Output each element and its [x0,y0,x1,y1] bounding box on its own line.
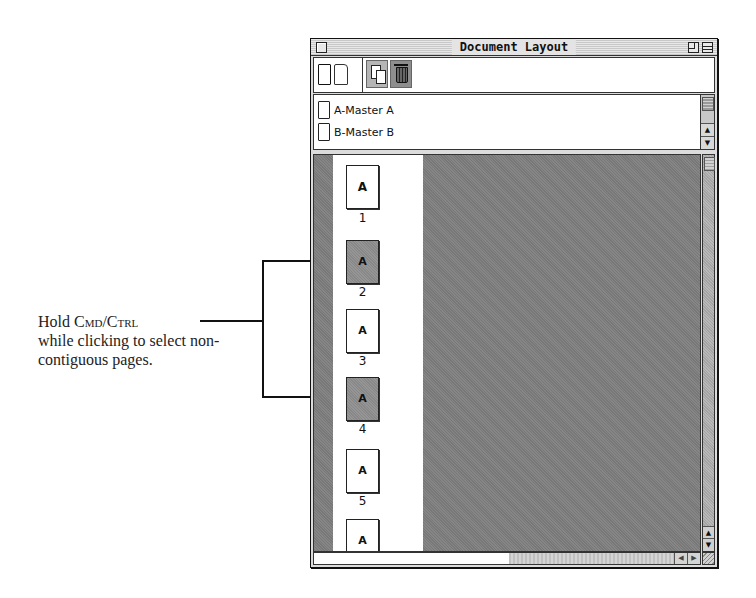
ctrl-key-label: Ctrl [107,313,138,330]
page-thumbnail[interactable]: A [346,309,379,353]
new-page-group [314,58,363,92]
masters-scroll-up-button[interactable]: ▲ [701,123,714,136]
page-thumbnail[interactable]: A [346,519,379,552]
master-pages-list: A-Master A B-Master B ▲ ▼ [313,94,715,150]
document-layout-palette: Document Layout A-Master A B-Master B ▲ [310,38,718,568]
pages-horizontal-scrollbar[interactable]: ◀ ▶ [313,552,701,565]
facing-page-icon[interactable] [334,64,348,85]
duplicate-icon-back [376,70,386,84]
page-number: 2 [346,285,379,299]
page-thumbnail[interactable]: A [346,449,379,493]
palette-toolbar [313,57,715,93]
leader-line-horizontal [200,320,264,322]
close-box-icon[interactable] [316,42,327,53]
masters-scroll-down-button[interactable]: ▼ [701,136,714,149]
zoom-box-icon[interactable] [688,42,699,53]
leader-line-vertical [262,260,264,398]
master-page-icon [318,101,330,119]
scroll-right-button[interactable]: ▶ [687,553,700,564]
window-title: Document Layout [452,39,576,55]
pages-vertical-scrollbar[interactable]: ▲ ▼ [702,154,715,552]
collapse-box-icon[interactable] [702,42,713,53]
document-pages-area: A 1 A 2 A 3 A 4 A 5 A [313,154,701,552]
cmd-key-label: Cmd [74,313,102,330]
single-page-icon[interactable] [318,64,331,85]
title-bar[interactable]: Document Layout [311,39,717,56]
page-thumbnail[interactable]: A [346,165,379,209]
page-number: 4 [346,422,379,436]
trash-icon [396,67,408,83]
page-number: 3 [346,354,379,368]
duplicate-button[interactable] [366,60,388,88]
scroll-left-button[interactable]: ◀ [674,553,687,564]
master-label: A-Master A [334,104,394,117]
resize-grip-icon[interactable] [702,552,715,565]
master-label: B-Master B [334,126,394,139]
delete-button[interactable] [390,60,412,88]
masters-scroll-thumb[interactable] [702,97,714,111]
master-item-a[interactable]: A-Master A [318,101,394,119]
master-item-b[interactable]: B-Master B [318,123,394,141]
page-thumbnail-selected[interactable]: A [346,240,379,284]
horizontal-scroll-track[interactable] [509,553,674,564]
masters-scrollbar[interactable]: ▲ ▼ [700,95,714,149]
page-thumbnail-selected[interactable]: A [346,377,379,421]
page-number: 1 [346,211,379,225]
pages-scroll-down-button[interactable]: ▼ [703,538,714,551]
master-page-icon [318,123,330,141]
page-column: A 1 A 2 A 3 A 4 A 5 A [333,155,423,551]
pages-scroll-thumb[interactable] [704,157,715,171]
page-number: 5 [346,494,379,508]
trash-lid-icon [394,64,408,66]
callout-text-prefix: Hold [38,313,74,330]
callout-text-rest: while clicking to select non-contiguous … [38,331,228,369]
